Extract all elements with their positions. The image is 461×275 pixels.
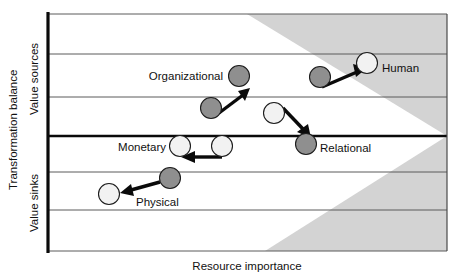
x-axis-title: Resource importance	[192, 260, 301, 272]
marker-relational-end[interactable]	[296, 134, 317, 155]
marker-human-start[interactable]	[310, 67, 331, 88]
y-axis-title: Transformation balance	[7, 70, 19, 190]
label-human: Human	[382, 62, 419, 74]
marker-human-end[interactable]	[357, 53, 378, 74]
y-region-label-value-sinks: Value sinks	[28, 174, 40, 232]
y-region-label-value-sources: Value sources	[28, 43, 40, 115]
label-physical: Physical	[136, 196, 179, 208]
label-organizational: Organizational	[149, 70, 223, 82]
resource-transformation-chart: Transformation balance Value sources Val…	[0, 0, 461, 275]
marker-organizational-end[interactable]	[229, 66, 250, 87]
label-relational: Relational	[320, 142, 371, 154]
marker-monetary-start[interactable]	[212, 136, 233, 157]
label-monetary: Monetary	[118, 141, 166, 153]
marker-physical-start[interactable]	[160, 168, 181, 189]
marker-physical-end[interactable]	[99, 184, 120, 205]
marker-relational-start[interactable]	[264, 103, 285, 124]
marker-organizational-start[interactable]	[201, 98, 222, 119]
marker-monetary-end[interactable]	[170, 136, 191, 157]
